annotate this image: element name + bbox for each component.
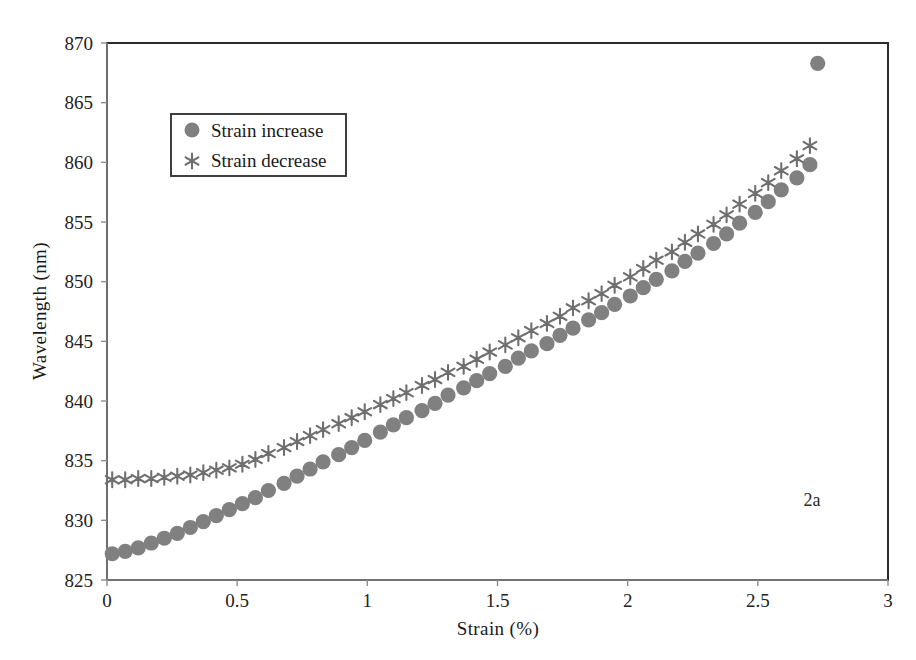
y-tick-label: 830 — [65, 510, 94, 531]
data-point-increase — [524, 343, 539, 358]
legend-label-strain-decrease: Strain decrease — [211, 150, 327, 171]
data-point-increase — [157, 531, 172, 546]
x-tick-label: 2 — [623, 590, 633, 611]
x-axis-title: Strain (%) — [457, 618, 540, 640]
data-point-increase — [315, 454, 330, 469]
data-point-increase — [539, 336, 554, 351]
data-point-increase — [118, 544, 133, 559]
data-point-increase — [235, 496, 250, 511]
data-point-increase — [565, 321, 580, 336]
data-point-increase — [511, 350, 526, 365]
legend-marker-circle-icon — [185, 123, 200, 138]
data-point-increase — [552, 328, 567, 343]
y-tick-label: 845 — [65, 331, 94, 352]
data-point-increase — [170, 526, 185, 541]
data-point-increase — [344, 440, 359, 455]
y-tick-label: 855 — [65, 212, 94, 233]
y-tick-label: 835 — [65, 450, 94, 471]
legend-label-strain-increase: Strain increase — [211, 120, 323, 141]
data-point-increase — [331, 447, 346, 462]
scatter-plot-svg: 825830835840845850855860865870 00.511.52… — [0, 0, 916, 660]
data-point-increase — [719, 226, 734, 241]
data-point-increase — [440, 387, 455, 402]
y-tick-label: 870 — [65, 33, 94, 54]
y-tick-label: 865 — [65, 92, 94, 113]
data-point-increase — [706, 236, 721, 251]
data-point-increase — [732, 216, 747, 231]
y-tick-label: 825 — [65, 570, 94, 591]
data-point-increase — [498, 359, 513, 374]
data-point-increase — [607, 297, 622, 312]
data-point-increase — [131, 540, 146, 555]
data-point-increase — [789, 170, 804, 185]
data-point-increase — [183, 520, 198, 535]
data-point-increase — [276, 476, 291, 491]
data-point-increase — [761, 194, 776, 209]
data-point-increase — [623, 288, 638, 303]
data-point-increase — [427, 396, 442, 411]
data-point-increase — [414, 403, 429, 418]
data-point-increase — [690, 245, 705, 260]
data-point-increase — [456, 380, 471, 395]
data-point-increase — [373, 424, 388, 439]
x-tick-label: 2.5 — [746, 590, 770, 611]
data-point-increase — [261, 483, 276, 498]
data-point-increase — [810, 56, 825, 71]
data-point-increase — [248, 490, 263, 505]
data-point-increase — [144, 535, 159, 550]
data-point-increase — [748, 205, 763, 220]
data-point-increase — [196, 514, 211, 529]
y-tick-label: 850 — [65, 271, 94, 292]
data-point-increase — [636, 280, 651, 295]
data-point-increase — [649, 272, 664, 287]
data-point-increase — [469, 373, 484, 388]
x-tick-label: 3 — [883, 590, 893, 611]
chart-figure: 825830835840845850855860865870 00.511.52… — [0, 0, 916, 660]
data-point-increase — [802, 157, 817, 172]
data-point-increase — [774, 182, 789, 197]
data-point-increase — [357, 433, 372, 448]
x-tick-label: 1 — [363, 590, 373, 611]
data-point-increase — [594, 305, 609, 320]
data-point-increase — [105, 546, 120, 561]
panel-annotation: 2a — [804, 490, 821, 510]
y-tick-label: 840 — [65, 391, 94, 412]
data-point-increase — [482, 366, 497, 381]
data-point-increase — [581, 312, 596, 327]
y-axis-title: Wavelength (nm) — [29, 242, 51, 380]
data-point-increase — [386, 417, 401, 432]
figure-background — [0, 0, 916, 660]
data-point-increase — [209, 508, 224, 523]
legend: Strain increase Strain decrease — [171, 114, 346, 176]
data-point-increase — [302, 461, 317, 476]
data-point-increase — [677, 254, 692, 269]
x-tick-label: 0.5 — [225, 590, 249, 611]
x-tick-label: 0 — [102, 590, 112, 611]
data-point-increase — [664, 263, 679, 278]
data-point-increase — [399, 410, 414, 425]
data-point-increase — [289, 469, 304, 484]
y-tick-label: 860 — [65, 152, 94, 173]
x-tick-label: 1.5 — [486, 590, 510, 611]
data-point-increase — [222, 502, 237, 517]
